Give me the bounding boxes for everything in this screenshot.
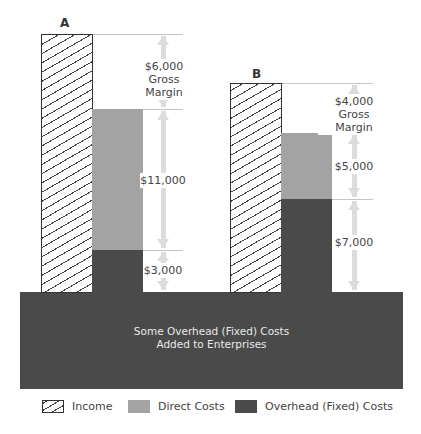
bar-a-income [41, 34, 93, 293]
legend-item-direct-costs: Direct Costs [128, 400, 225, 413]
base-overhead-label: Some Overhead (Fixed) Costs Added to Ent… [20, 325, 403, 351]
bar-b-direct-label: $5,000 [334, 159, 374, 174]
bar-b-overhead-label: $7,000 [334, 235, 374, 250]
bar-a-direct-costs [92, 109, 143, 251]
bar-a-direct-label: $11,000 [140, 173, 186, 188]
bar-b-refline-overhead [332, 199, 373, 200]
bar-b-title: B [252, 67, 261, 81]
bar-b-overhead [281, 199, 332, 293]
bar-a-title: A [60, 16, 69, 30]
bar-a-refline-direct [143, 109, 183, 110]
legend-income-label: Income [72, 400, 112, 413]
legend-direct-label: Direct Costs [158, 400, 225, 413]
bar-b-margin-label: $4,000 Gross Margin [318, 94, 390, 135]
legend-item-income: Income [42, 400, 112, 413]
bar-a-refline-overhead [143, 250, 183, 251]
direct-costs-swatch-icon [128, 400, 150, 413]
base-label-line1: Some Overhead (Fixed) Costs [20, 325, 403, 338]
income-swatch-icon [42, 400, 64, 413]
bar-a-refline-top [93, 34, 183, 35]
legend-overhead-label: Overhead (Fixed) Costs [265, 400, 393, 413]
bar-a-margin-text: Gross Margin [128, 73, 200, 99]
bar-b-margin-value: $4,000 [318, 95, 390, 108]
legend-item-overhead: Overhead (Fixed) Costs [235, 400, 393, 413]
bar-b-income [230, 83, 282, 293]
bar-b-direct-costs [281, 133, 332, 200]
overhead-swatch-icon [235, 400, 257, 413]
bar-a-margin-label: $6,000 Gross Margin [128, 59, 200, 100]
bar-a-overhead-label: $3,000 [143, 263, 183, 278]
bar-b-margin-text: Gross Margin [318, 108, 390, 134]
bar-a-margin-value: $6,000 [128, 60, 200, 73]
bar-b-refline-top [282, 83, 373, 84]
base-label-line2: Added to Enterprises [20, 338, 403, 351]
bar-a-overhead [92, 250, 143, 293]
